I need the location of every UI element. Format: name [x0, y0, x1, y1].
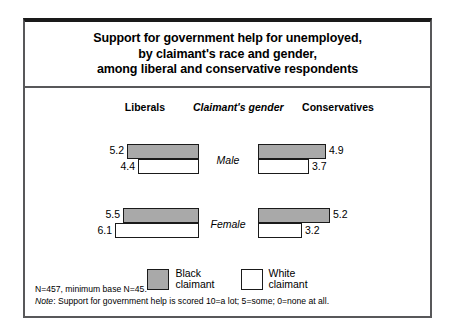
bars-conservatives-male: 4.9 3.7 [258, 136, 396, 188]
bar-liberals-male-white [138, 159, 199, 174]
footnote-base: N=457, minimum base N=45. [35, 283, 420, 295]
plot-area: Liberals Claimant's gender Conservatives… [25, 88, 430, 304]
column-header-claimants-gender: Claimant's gender [193, 101, 263, 113]
chart-title: Support for government help for unemploy… [25, 22, 430, 88]
value-liberals-female-white: 6.1 [97, 224, 112, 236]
row-label-female: Female [193, 218, 263, 230]
title-line-1: Support for government help for unemploy… [35, 31, 420, 47]
footnote-note: Note: Support for government help is sco… [35, 295, 420, 307]
value-liberals-female-black: 5.5 [105, 208, 120, 220]
footnote-note-label: Note [35, 296, 53, 306]
bar-conservatives-female-white [258, 223, 302, 238]
bar-liberals-male-black [127, 144, 199, 159]
bars-conservatives-female: 5.2 3.2 [258, 200, 396, 252]
bar-conservatives-female-black [258, 208, 330, 223]
chart-figure: Support for government help for unemploy… [23, 18, 432, 318]
bar-conservatives-male-white [258, 159, 309, 174]
bars-liberals-female: 5.5 6.1 [61, 200, 199, 252]
bar-liberals-female-white [115, 223, 199, 238]
value-liberals-male-white: 4.4 [120, 160, 135, 172]
bar-group-female: 5.5 6.1 Female 5.2 3.2 [25, 200, 430, 252]
chart-footnotes: N=457, minimum base N=45. Note: Support … [35, 283, 420, 307]
value-conservatives-male-black: 4.9 [329, 144, 344, 156]
footnote-note-text: : Support for government help is scored … [53, 296, 329, 306]
bar-group-male: 5.2 4.4 Male 4.9 3.7 [25, 136, 430, 188]
value-conservatives-female-white: 3.2 [305, 224, 320, 236]
column-header-liberals: Liberals [85, 101, 205, 113]
value-conservatives-female-black: 5.2 [333, 208, 348, 220]
title-line-2: by claimant's race and gender, [35, 47, 420, 63]
bar-liberals-female-black [123, 208, 199, 223]
column-header-conservatives: Conservatives [273, 101, 403, 113]
title-line-3: among liberal and conservative responden… [35, 62, 420, 78]
row-label-male: Male [193, 154, 263, 166]
value-conservatives-male-white: 3.7 [312, 160, 327, 172]
value-liberals-male-black: 5.2 [109, 144, 124, 156]
bars-liberals-male: 5.2 4.4 [61, 136, 199, 188]
bar-conservatives-male-black [258, 144, 326, 159]
